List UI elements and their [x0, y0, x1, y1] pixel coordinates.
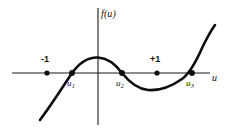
- x-axis-label: u: [212, 73, 217, 83]
- tick-dot-plus-one: [154, 70, 159, 75]
- function-plot-figure: f(u) u u1 u2 u3 -1 +1: [0, 0, 228, 138]
- tick-dot-minus-one: [44, 70, 49, 75]
- root-label-u2: u2: [116, 79, 124, 88]
- root-dot-u3: [189, 70, 195, 76]
- root-label-u1-base: u: [67, 78, 72, 88]
- y-axis-label: f(u): [101, 9, 116, 19]
- plot-canvas: [0, 0, 228, 138]
- root-label-u2-subscript: 2: [121, 82, 124, 89]
- tick-label-minus-one: -1: [41, 55, 49, 64]
- root-label-u3-base: u: [186, 78, 191, 88]
- root-label-u3: u3: [186, 79, 194, 88]
- root-dot-u1: [69, 70, 75, 76]
- root-label-u2-base: u: [116, 78, 121, 88]
- root-label-u1: u1: [67, 79, 75, 88]
- root-dot-u2: [119, 70, 125, 76]
- tick-label-plus-one: +1: [150, 55, 160, 64]
- root-label-u1-subscript: 1: [72, 82, 75, 89]
- root-label-u3-subscript: 3: [191, 82, 194, 89]
